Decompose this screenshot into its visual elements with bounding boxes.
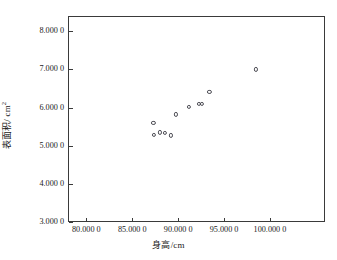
y-tick-mark [69, 146, 73, 147]
x-tick-label: 90.000 0 [164, 225, 193, 235]
x-tick-label: 100.000 0 [254, 225, 287, 235]
y-tick-label: 8.000 0 [20, 26, 64, 36]
y-tick-label: 5.000 0 [20, 141, 64, 151]
scatter-chart-figure: 80.000 085.000 090.000 095.000 0100.000 … [0, 0, 337, 260]
plot-area [68, 16, 325, 222]
y-axis-title-text: 表面积/ cm [2, 105, 12, 149]
x-axis-title: 身高/cm [0, 238, 337, 251]
x-tick-mark [270, 218, 271, 222]
y-tick-label: 3.000 0 [20, 217, 64, 227]
x-tick-mark [178, 218, 179, 222]
y-tick-mark [69, 108, 73, 109]
x-tick-label: 95.000 0 [210, 225, 239, 235]
y-tick-mark [69, 184, 73, 185]
x-tick-mark [224, 218, 225, 222]
x-tick-mark [86, 218, 87, 222]
y-tick-mark [69, 31, 73, 32]
x-tick-mark [132, 218, 133, 222]
y-tick-label: 6.000 0 [20, 103, 64, 113]
y-tick-label: 4.000 0 [20, 179, 64, 189]
x-tick-label: 80.000 0 [72, 225, 101, 235]
y-tick-label: 7.000 0 [20, 64, 64, 74]
y-axis-title-superscript: 2 [0, 102, 7, 105]
y-axis-title: 表面积/ cm2 [0, 102, 13, 150]
x-tick-label: 85.000 0 [118, 225, 147, 235]
y-tick-mark [69, 222, 73, 223]
y-tick-mark [69, 69, 73, 70]
